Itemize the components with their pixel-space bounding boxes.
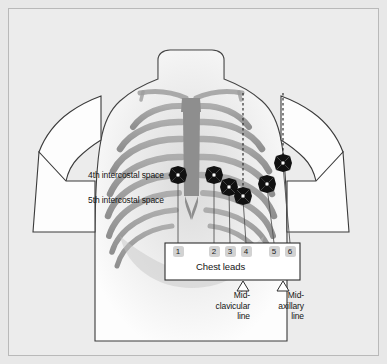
lead-badge-3[interactable]: 3 xyxy=(225,246,236,257)
electrode-v6 xyxy=(274,154,292,172)
diagram-canvas xyxy=(0,0,387,364)
midclavicular-line-2: clavicular xyxy=(203,301,250,312)
label-5th-intercostal-space: 5th intercostal space xyxy=(88,195,164,205)
lead-badge-6[interactable]: 6 xyxy=(285,246,296,257)
label-midaxillary-line: Mid- axillary line xyxy=(262,290,304,322)
midclavicular-line-3: line xyxy=(203,311,250,322)
midaxillary-line-1: Mid- xyxy=(262,290,304,301)
label-chest-leads: Chest leads xyxy=(196,261,245,272)
lead-badge-1[interactable]: 1 xyxy=(173,246,184,257)
midaxillary-line-2: axillary xyxy=(262,301,304,312)
label-4th-intercostal-space: 4th intercostal space xyxy=(88,170,164,180)
electrode-v5 xyxy=(258,175,276,193)
electrode-v1 xyxy=(169,166,187,184)
electrode-v4 xyxy=(234,187,252,205)
label-midclavicular-line: Mid- clavicular line xyxy=(203,290,250,322)
lead-badge-5[interactable]: 5 xyxy=(269,246,280,257)
midaxillary-line-3: line xyxy=(262,311,304,322)
midclavicular-line-1: Mid- xyxy=(203,290,250,301)
ecg-chest-lead-figure: 4th intercostal space 5th intercostal sp… xyxy=(0,0,387,364)
electrode-v2 xyxy=(205,166,223,184)
lead-badge-4[interactable]: 4 xyxy=(241,246,252,257)
lead-badge-2[interactable]: 2 xyxy=(209,246,220,257)
